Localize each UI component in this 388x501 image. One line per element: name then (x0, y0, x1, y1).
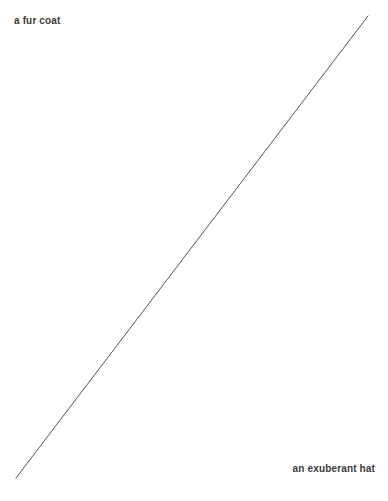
label-a-fur-coat: a fur coat (14, 16, 61, 26)
label-an-exuberant-hat: an exuberant hat (293, 464, 375, 474)
connector-line-svg (0, 0, 388, 501)
diagonal-connector-line (16, 16, 368, 478)
diagram-canvas: a fur coat an exuberant hat (0, 0, 388, 501)
